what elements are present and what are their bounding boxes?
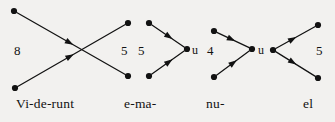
note-node — [11, 8, 17, 14]
arrow-head-icon — [288, 37, 297, 44]
note-node — [146, 20, 152, 26]
interval-number-label: 5 — [138, 44, 145, 57]
note-node — [211, 74, 217, 80]
note-node — [184, 46, 190, 52]
note-node — [125, 73, 131, 79]
arrow-head-icon — [288, 58, 297, 65]
arrow-head-icon — [164, 32, 173, 39]
descending-diverging-arrow — [276, 52, 316, 77]
syllable-text-label: el — [303, 97, 313, 111]
descending-converging-arrow — [217, 32, 249, 47]
note-node — [315, 75, 321, 81]
interval-number-label: 5 — [121, 44, 128, 57]
ascending-converging-arrow — [217, 51, 250, 75]
ascending-converging-arrow — [152, 51, 185, 74]
note-node — [315, 22, 321, 28]
note-node — [146, 73, 152, 79]
note-node — [270, 47, 276, 53]
arrow-head-icon — [228, 60, 237, 67]
note-node — [211, 28, 217, 34]
arrow-head-icon — [65, 54, 74, 61]
descending-crossing-arrow — [17, 13, 126, 75]
interval-number-label: 8 — [14, 44, 21, 57]
note-node — [125, 20, 131, 26]
node-letter-label: u — [192, 44, 198, 56]
interval-number-label: 5 — [316, 44, 323, 57]
voice-leading-diagram: 85545uuVi-de-runte-ma-nu-el — [0, 0, 335, 122]
arrow-head-icon — [226, 35, 235, 41]
note-node — [12, 85, 18, 91]
syllable-text-label: e-ma- — [124, 97, 156, 111]
arrow-head-icon — [64, 38, 73, 45]
ascending-crossing-arrow — [18, 25, 126, 87]
node-letter-label: u — [258, 44, 264, 56]
syllable-text-label: nu- — [206, 97, 225, 111]
syllable-text-label: Vi-de-runt — [16, 97, 74, 111]
note-node — [249, 46, 255, 52]
descending-converging-arrow — [152, 25, 185, 48]
ascending-diverging-arrow — [276, 27, 316, 49]
arrow-head-icon — [164, 59, 173, 66]
interval-number-label: 4 — [207, 44, 214, 57]
